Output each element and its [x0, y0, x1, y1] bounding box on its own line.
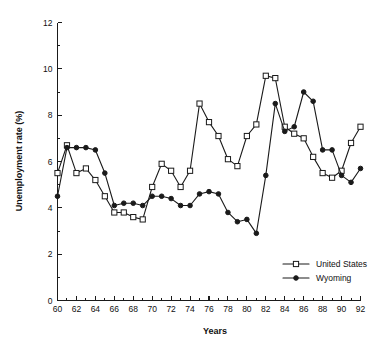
data-point-marker-circle: [197, 192, 202, 197]
data-point-marker-square: [292, 131, 297, 136]
x-tick-label: 70: [147, 304, 157, 314]
data-point-marker-square: [131, 215, 136, 220]
data-point-marker-circle: [320, 148, 325, 153]
data-point-marker-square: [83, 166, 88, 171]
data-point-marker-circle: [150, 194, 155, 199]
data-point-marker-square: [273, 76, 278, 81]
unemployment-rate-line-chart: 6062646668707274767880828486889092024681…: [0, 0, 383, 347]
data-point-marker-circle: [178, 203, 183, 208]
data-point-marker-circle: [282, 129, 287, 134]
data-point-marker-circle: [301, 90, 306, 95]
data-point-marker-square: [197, 101, 202, 106]
data-point-marker-square: [244, 133, 249, 138]
data-point-marker-square: [263, 73, 268, 78]
data-point-marker-square: [254, 122, 259, 127]
data-point-marker-square: [169, 168, 174, 173]
y-tick-label: 0: [48, 296, 53, 306]
data-point-marker-circle: [103, 171, 108, 176]
y-tick-label: 4: [48, 203, 53, 213]
x-tick-label: 90: [337, 304, 347, 314]
x-tick-label: 74: [185, 304, 195, 314]
data-point-marker-square: [348, 140, 353, 145]
x-tick-label: 80: [242, 304, 252, 314]
data-point-marker-square: [112, 210, 117, 215]
x-axis-title: Years: [203, 326, 227, 336]
data-point-marker-square: [358, 124, 363, 129]
x-tick-label: 64: [91, 304, 101, 314]
data-point-marker-circle: [235, 219, 240, 224]
data-point-marker-circle: [93, 148, 98, 153]
y-tick-label: 6: [48, 157, 53, 167]
data-point-marker-circle: [112, 203, 117, 208]
data-point-marker-circle: [188, 203, 193, 208]
data-point-marker-square: [206, 120, 211, 125]
series-polyline: [58, 92, 361, 233]
x-tick-label: 68: [129, 304, 139, 314]
legend-marker-circle: [294, 276, 299, 281]
data-point-marker-square: [55, 170, 60, 175]
x-tick-label: 66: [110, 304, 120, 314]
data-point-marker-circle: [292, 124, 297, 129]
chart-legend: United StatesWyoming: [283, 259, 367, 283]
data-point-marker-square: [178, 184, 183, 189]
y-tick-label: 12: [43, 18, 53, 28]
x-tick-label: 62: [72, 304, 82, 314]
data-point-marker-square: [329, 175, 334, 180]
legend-marker-square: [293, 261, 298, 266]
data-point-marker-circle: [65, 145, 70, 150]
data-point-marker-circle: [339, 173, 344, 178]
data-point-marker-square: [150, 184, 155, 189]
x-tick-label: 76: [204, 304, 214, 314]
data-point-marker-circle: [330, 148, 335, 153]
data-point-marker-circle: [358, 166, 363, 171]
y-tick-label: 2: [48, 249, 53, 259]
data-point-marker-square: [74, 170, 79, 175]
data-point-marker-square: [93, 177, 98, 182]
data-point-marker-square: [320, 170, 325, 175]
x-tick-label: 60: [53, 304, 63, 314]
data-point-marker-square: [121, 210, 126, 215]
data-point-marker-square: [225, 157, 230, 162]
data-series: [55, 73, 363, 235]
data-point-marker-circle: [311, 99, 316, 104]
x-tick-label: 84: [280, 304, 290, 314]
data-point-marker-square: [187, 168, 192, 173]
data-point-marker-circle: [226, 210, 231, 215]
data-point-marker-circle: [216, 192, 221, 197]
data-point-marker-square: [140, 217, 145, 222]
legend-label: Wyoming: [316, 273, 352, 283]
data-point-marker-circle: [169, 196, 174, 201]
x-tick-label: 82: [261, 304, 271, 314]
data-point-marker-circle: [245, 217, 250, 222]
data-point-marker-square: [159, 161, 164, 166]
legend-label: United States: [316, 259, 367, 269]
y-axis-title: Unemployment rate (%): [14, 111, 24, 212]
data-point-marker-circle: [84, 145, 89, 150]
x-tick-label: 72: [166, 304, 176, 314]
data-point-marker-circle: [131, 201, 136, 206]
data-point-marker-circle: [140, 203, 145, 208]
x-tick-label: 78: [223, 304, 233, 314]
series-united-states: [55, 73, 363, 222]
chart-container: 6062646668707274767880828486889092024681…: [0, 0, 383, 347]
data-point-marker-circle: [55, 194, 60, 199]
axis-tick-labels: 6062646668707274767880828486889092024681…: [43, 18, 365, 315]
y-tick-label: 10: [43, 64, 53, 74]
data-point-marker-circle: [121, 201, 126, 206]
data-point-marker-circle: [254, 231, 259, 236]
data-point-marker-square: [216, 133, 221, 138]
data-point-marker-circle: [349, 180, 354, 185]
data-point-marker-square: [102, 194, 107, 199]
data-point-marker-circle: [264, 173, 269, 178]
data-point-marker-circle: [159, 194, 164, 199]
data-point-marker-square: [235, 164, 240, 169]
data-point-marker-circle: [74, 145, 79, 150]
x-tick-label: 86: [299, 304, 309, 314]
data-point-marker-square: [301, 136, 306, 141]
y-tick-label: 8: [48, 110, 53, 120]
data-point-marker-circle: [273, 101, 278, 106]
data-point-marker-square: [311, 154, 316, 159]
x-tick-label: 88: [318, 304, 328, 314]
data-point-marker-circle: [207, 189, 212, 194]
x-tick-label: 92: [356, 304, 366, 314]
